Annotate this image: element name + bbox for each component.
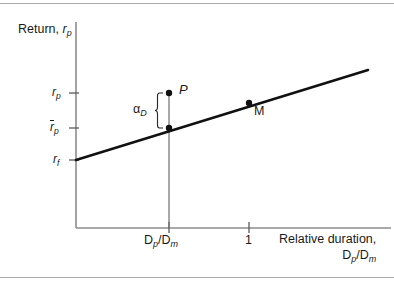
x-tick-label-dp-dm-sub2: m [171, 239, 179, 249]
y-tick-label-rf: rf [53, 153, 59, 167]
x-tick-label-dp-dm-base: D [144, 233, 153, 247]
chart-figure: Return, rp rp rp rf Dp/Dm 1 Relative dur… [0, 0, 394, 283]
y-axis-title: Return, rp [18, 23, 72, 38]
x-axis-title: Relative duration,Dp/Dm [279, 233, 376, 263]
duration-market-line [76, 70, 368, 160]
y-axis-title-text: Return, [18, 22, 62, 36]
data-point-label-p: P [179, 83, 188, 96]
alpha-d-label-sub: D [140, 108, 147, 118]
alpha-d-brace [155, 93, 163, 128]
y-tick-label-rp-sub: p [56, 91, 61, 101]
x-axis-title-line2: Dp/Dm [279, 249, 376, 264]
x-tick-label-one: 1 [245, 234, 252, 247]
x-axis-title-line2-mid: /D [356, 248, 369, 262]
y-tick-label-rp-bar-sub: p [54, 126, 59, 136]
data-point-m [246, 100, 252, 106]
y-tick-label-rp-bar: rp [50, 121, 59, 135]
alpha-d-label: αD [133, 103, 147, 118]
x-tick-label-dp-dm-mid: /D [158, 233, 171, 247]
data-point-label-m: M [254, 105, 264, 118]
y-axis-title-sub: p [67, 28, 72, 38]
y-tick-label-rp-bar-var: r [50, 121, 54, 133]
y-tick-label-rp: rp [52, 86, 61, 100]
x-axis-title-line2-base: D [342, 248, 351, 262]
x-axis-title-line1: Relative duration, [279, 232, 376, 246]
data-point-p [166, 90, 172, 96]
y-tick-label-rf-sub: f [57, 158, 59, 168]
x-tick-label-dp-dm: Dp/Dm [144, 234, 178, 249]
x-axis-title-line2-sub2: m [369, 253, 377, 263]
data-point-p-on-line [166, 125, 172, 131]
